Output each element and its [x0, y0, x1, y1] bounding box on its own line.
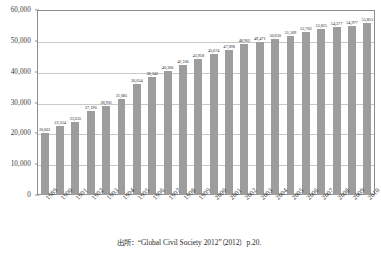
- bar-column: 38,243: [148, 10, 156, 195]
- bar-value-label: 54,377: [331, 21, 342, 26]
- bar-value-label: 42,100: [177, 59, 188, 64]
- y-axis-tick-label: 10,000: [11, 160, 31, 168]
- y-axis-tick-label: 50,000: [11, 37, 31, 45]
- y-axis-tick-label: 60,000: [11, 6, 31, 14]
- bar-value-label: 23,635: [70, 116, 81, 121]
- bar-column: 47,098: [225, 10, 233, 195]
- bar-column: 23,635: [71, 10, 79, 195]
- bar-value-label: 45,674: [208, 48, 219, 53]
- bar: [164, 71, 172, 195]
- bar-series: 20,06122,33423,63527,19028,90131,08536,0…: [37, 10, 375, 195]
- bar: [87, 111, 95, 195]
- bar: [287, 36, 295, 195]
- bar: [240, 44, 248, 195]
- bar-value-label: 54,977: [346, 20, 357, 25]
- bar-value-label: 55,853: [362, 17, 373, 22]
- bar: [271, 39, 279, 195]
- bar-value-label: 27,190: [85, 105, 96, 110]
- bar: [56, 126, 64, 195]
- bar-value-label: 36,054: [131, 78, 142, 83]
- bar-value-label: 49,471: [254, 36, 265, 41]
- bar: [194, 59, 202, 195]
- bar-column: 22,334: [56, 10, 64, 195]
- y-axis-tick-label: 20,000: [11, 129, 31, 137]
- y-axis-tick-label: 40,000: [11, 68, 31, 76]
- bar: [225, 50, 233, 195]
- bar-value-label: 43,958: [193, 53, 204, 58]
- bar-value-label: 22,334: [54, 120, 65, 125]
- bar: [71, 122, 79, 195]
- bar: [317, 29, 325, 195]
- bar-column: 36,054: [133, 10, 141, 195]
- bar-value-label: 52,763: [300, 26, 311, 31]
- bar: [256, 42, 264, 195]
- bar-column: 48,902: [240, 10, 248, 195]
- bar-value-label: 47,098: [223, 44, 234, 49]
- bar-column: 52,763: [302, 10, 310, 195]
- bar-column: 20,061: [41, 10, 49, 195]
- bar-column: 50,650: [271, 10, 279, 195]
- bar: [302, 32, 310, 195]
- x-axis: 1989199019911992199319941995199619971998…: [37, 196, 375, 234]
- bar-value-label: 48,902: [239, 38, 250, 43]
- bar: [133, 84, 141, 195]
- y-axis: 010,00020,00030,00040,00050,00060,000: [0, 10, 35, 195]
- y-axis-tick-label: 0: [27, 191, 31, 199]
- bar-value-label: 40,306: [162, 65, 173, 70]
- bar-column: 27,190: [87, 10, 95, 195]
- bar-column: 43,958: [194, 10, 202, 195]
- bar-column: 55,853: [363, 10, 371, 195]
- bar: [348, 26, 356, 196]
- bar-column: 40,306: [164, 10, 172, 195]
- bar-value-label: 20,061: [39, 127, 50, 132]
- bar: [363, 23, 371, 195]
- bar: [41, 133, 49, 195]
- bar: [118, 99, 126, 195]
- bar-value-label: 28,901: [100, 100, 111, 105]
- bar-column: 54,977: [348, 10, 356, 195]
- bar-value-label: 51,509: [285, 30, 296, 35]
- bar: [210, 54, 218, 195]
- bar-column: 45,674: [210, 10, 218, 195]
- bar: [333, 27, 341, 195]
- bar-column: 42,100: [179, 10, 187, 195]
- bar-value-label: 53,815: [315, 23, 326, 28]
- bar-value-label: 31,085: [116, 93, 127, 98]
- bar-column: 49,471: [256, 10, 264, 195]
- bar-value-label: 38,243: [146, 71, 157, 76]
- bar: [102, 106, 110, 195]
- y-axis-tick-label: 30,000: [11, 99, 31, 107]
- bar: [179, 65, 187, 195]
- bar-column: 31,085: [118, 10, 126, 195]
- bar-column: 54,377: [333, 10, 341, 195]
- bar-value-label: 50,650: [269, 33, 280, 38]
- source-caption: 出所：“Global Civil Society 2012”（2012）p.20…: [0, 236, 378, 247]
- bar-column: 51,509: [287, 10, 295, 195]
- bar: [148, 77, 156, 195]
- bar-column: 28,901: [102, 10, 110, 195]
- bar-column: 53,815: [317, 10, 325, 195]
